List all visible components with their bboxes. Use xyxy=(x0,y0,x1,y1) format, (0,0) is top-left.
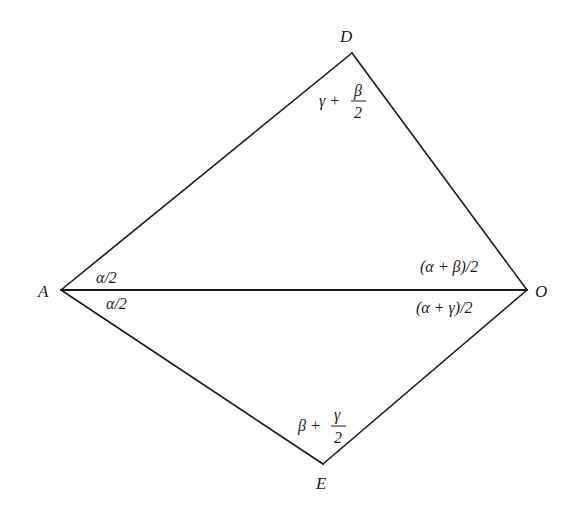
angle-label-D-prefix: γ + xyxy=(319,92,340,110)
vertex-label-D: D xyxy=(339,27,353,46)
angle-label-A-lower: α/2 xyxy=(106,295,127,312)
angle-label-D-denominator: 2 xyxy=(354,104,362,121)
vertex-label-O: O xyxy=(535,282,547,301)
angle-label-D-numerator: β xyxy=(353,82,362,100)
angle-label-E-prefix: β + xyxy=(297,417,321,435)
segment-DO xyxy=(352,53,527,290)
geometry-diagram: D A O E α/2 α/2 (α + β)/2 (α + γ)/2 γ + … xyxy=(0,0,582,525)
diagram-svg: D A O E α/2 α/2 (α + β)/2 (α + γ)/2 γ + … xyxy=(0,0,582,525)
angle-label-O-lower: (α + γ)/2 xyxy=(416,299,473,317)
vertex-label-A: A xyxy=(37,282,49,301)
segment-AE xyxy=(61,290,323,464)
angle-label-E-numerator: γ xyxy=(334,406,341,424)
segment-AD xyxy=(61,53,352,290)
vertex-label-E: E xyxy=(315,474,327,493)
angle-label-A-upper: α/2 xyxy=(96,269,117,286)
segment-EO xyxy=(323,290,527,464)
angle-label-E: β + γ 2 xyxy=(297,406,346,446)
angle-label-E-denominator: 2 xyxy=(334,429,342,446)
angle-label-D: γ + β 2 xyxy=(319,82,366,121)
angle-label-O-upper: (α + β)/2 xyxy=(420,258,478,276)
